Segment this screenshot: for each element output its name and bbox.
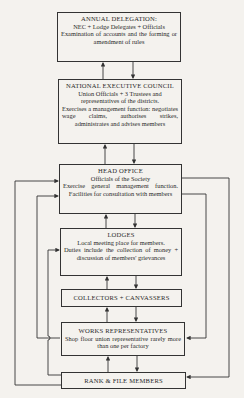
- box-works-representatives: WORKS REPRESENTATIVES Shop floor union r…: [61, 322, 185, 356]
- box-collectors-canvassers: COLLECTORS + CANVASSERS: [61, 289, 182, 307]
- box-national-executive-council: NATIONAL EXECUTIVE COUNCIL Union Officia…: [58, 79, 182, 144]
- lodges-body: Duties include the collection of money +…: [64, 246, 178, 261]
- lodges-subtitle: Local meeting place for members.: [64, 239, 178, 247]
- nec-body: Exercises a management function: negotia…: [62, 105, 178, 128]
- rank-file-title: RANK & FILE MEMBERS: [65, 377, 182, 385]
- box-rank-file-members: RANK & FILE MEMBERS: [61, 372, 186, 389]
- nec-title: NATIONAL EXECUTIVE COUNCIL: [62, 82, 178, 90]
- head-office-title: HEAD OFFICE: [63, 167, 178, 175]
- collectors-title: COLLECTORS + CANVASSERS: [65, 294, 178, 302]
- head-office-body: Exercise general management function. Fa…: [63, 182, 178, 197]
- annual-delegation-body: Examination of accounts and the forming …: [61, 30, 177, 45]
- box-annual-delegation: ANNUAL DELEGATION: NEC + Lodge Delegates…: [57, 12, 181, 62]
- works-body: Shop floor union representative rarely m…: [65, 335, 181, 350]
- box-head-office: HEAD OFFICE Officials of the Society Exe…: [59, 164, 182, 214]
- works-title: WORKS REPRESENTATIVES: [65, 327, 181, 335]
- annual-delegation-title: ANNUAL DELEGATION:: [61, 15, 177, 23]
- annual-delegation-subtitle: NEC + Lodge Delegates + Officials: [61, 23, 177, 31]
- box-lodges: LODGES Local meeting place for members. …: [60, 228, 182, 276]
- nec-subtitle: Union Officials + 3 Trustees and represe…: [62, 90, 178, 105]
- head-office-subtitle: Officials of the Society: [63, 175, 178, 183]
- lodges-title: LODGES: [64, 231, 178, 239]
